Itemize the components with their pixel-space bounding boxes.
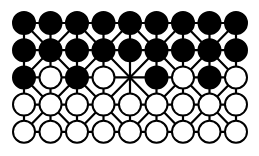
black-piece[interactable] bbox=[93, 39, 115, 61]
black-piece[interactable] bbox=[172, 39, 194, 61]
white-piece[interactable] bbox=[225, 121, 247, 143]
black-piece[interactable] bbox=[146, 66, 168, 88]
white-piece[interactable] bbox=[225, 94, 247, 116]
white-piece[interactable] bbox=[172, 66, 194, 88]
black-piece[interactable] bbox=[66, 12, 88, 34]
black-piece[interactable] bbox=[146, 12, 168, 34]
black-piece[interactable] bbox=[225, 12, 247, 34]
fanorona-board bbox=[0, 0, 259, 156]
black-piece[interactable] bbox=[40, 12, 62, 34]
white-piece[interactable] bbox=[66, 94, 88, 116]
white-piece[interactable] bbox=[225, 66, 247, 88]
black-piece[interactable] bbox=[66, 39, 88, 61]
white-piece[interactable] bbox=[119, 94, 141, 116]
white-piece[interactable] bbox=[40, 94, 62, 116]
black-piece[interactable] bbox=[66, 66, 88, 88]
white-piece[interactable] bbox=[199, 121, 221, 143]
black-piece[interactable] bbox=[13, 39, 35, 61]
black-piece[interactable] bbox=[172, 12, 194, 34]
black-piece[interactable] bbox=[225, 39, 247, 61]
black-piece[interactable] bbox=[93, 12, 115, 34]
white-piece[interactable] bbox=[172, 94, 194, 116]
white-piece[interactable] bbox=[146, 94, 168, 116]
white-piece[interactable] bbox=[66, 121, 88, 143]
white-piece[interactable] bbox=[93, 94, 115, 116]
black-piece[interactable] bbox=[199, 66, 221, 88]
white-piece[interactable] bbox=[119, 121, 141, 143]
black-piece[interactable] bbox=[13, 12, 35, 34]
white-piece[interactable] bbox=[40, 121, 62, 143]
black-piece[interactable] bbox=[13, 66, 35, 88]
white-piece[interactable] bbox=[13, 94, 35, 116]
white-piece[interactable] bbox=[40, 66, 62, 88]
black-piece[interactable] bbox=[119, 12, 141, 34]
black-piece[interactable] bbox=[119, 39, 141, 61]
white-piece[interactable] bbox=[13, 121, 35, 143]
white-piece[interactable] bbox=[93, 66, 115, 88]
white-piece[interactable] bbox=[199, 94, 221, 116]
black-piece[interactable] bbox=[146, 39, 168, 61]
white-piece[interactable] bbox=[93, 121, 115, 143]
black-piece[interactable] bbox=[199, 39, 221, 61]
white-piece[interactable] bbox=[172, 121, 194, 143]
black-piece[interactable] bbox=[40, 39, 62, 61]
black-piece[interactable] bbox=[199, 12, 221, 34]
white-piece[interactable] bbox=[146, 121, 168, 143]
